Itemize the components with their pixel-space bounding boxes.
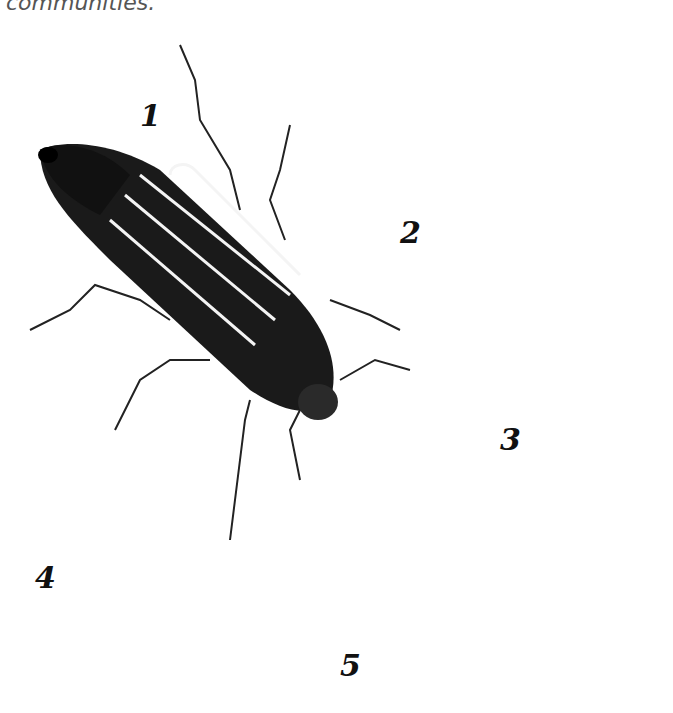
beetle-engraving-illustration (0, 0, 673, 713)
figure-label-4: 4 (35, 560, 56, 595)
figure-label-3: 3 (500, 422, 521, 457)
figure-label-5: 5 (340, 648, 361, 683)
figure-label-2: 2 (400, 215, 421, 250)
figure-label-1: 1 (140, 98, 161, 133)
adult-beetle-figure (30, 45, 410, 540)
